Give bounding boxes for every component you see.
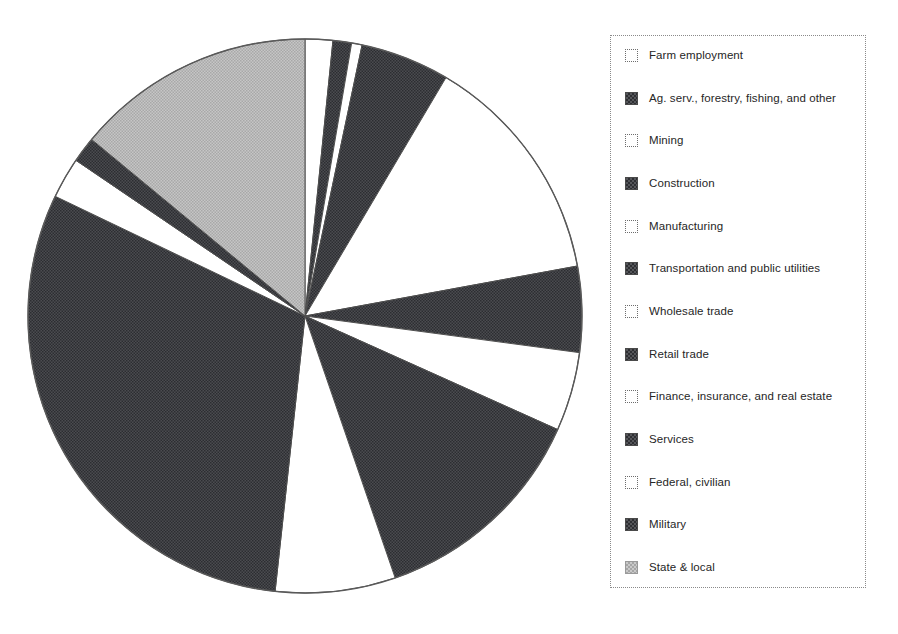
legend-swatch-icon <box>625 561 638 574</box>
legend-swatch-icon <box>625 305 638 318</box>
legend-item-label: Federal, civilian <box>649 476 731 489</box>
legend-item[interactable]: Finance, insurance, and real estate <box>625 386 859 407</box>
legend-item[interactable]: Ag. serv., forestry, fishing, and other <box>625 88 859 109</box>
legend-swatch-icon <box>625 348 638 361</box>
legend-item-label: Military <box>649 518 686 531</box>
legend-item-label: Construction <box>649 177 715 190</box>
pie-chart-svg <box>0 0 610 634</box>
legend-item[interactable]: Wholesale trade <box>625 301 859 322</box>
legend-item[interactable]: Military <box>625 514 859 535</box>
legend-items-list: Farm employmentAg. serv., forestry, fish… <box>611 36 865 587</box>
pie-chart-area <box>0 0 610 634</box>
legend-swatch-icon <box>625 476 638 489</box>
legend-swatch-icon <box>625 433 638 446</box>
legend-item-label: Finance, insurance, and real estate <box>649 390 832 403</box>
legend-swatch-icon <box>625 390 638 403</box>
legend-item-label: Ag. serv., forestry, fishing, and other <box>649 92 836 105</box>
legend-swatch-icon <box>625 134 638 147</box>
legend-swatch-icon <box>625 518 638 531</box>
legend-swatch-icon <box>625 262 638 275</box>
legend-item[interactable]: Farm employment <box>625 45 859 66</box>
legend-item-label: Services <box>649 433 694 446</box>
legend-item[interactable]: Services <box>625 429 859 450</box>
legend-item[interactable]: State & local <box>625 557 859 578</box>
legend-item-label: Farm employment <box>649 49 743 62</box>
legend-item-label: Manufacturing <box>649 220 723 233</box>
legend-item[interactable]: Transportation and public utilities <box>625 258 859 279</box>
legend-item[interactable]: Mining <box>625 130 859 151</box>
legend-item[interactable]: Retail trade <box>625 344 859 365</box>
legend-item[interactable]: Construction <box>625 173 859 194</box>
legend-item-label: Transportation and public utilities <box>649 262 820 275</box>
legend-box: Farm employmentAg. serv., forestry, fish… <box>610 35 866 588</box>
legend-swatch-icon <box>625 177 638 190</box>
legend-swatch-icon <box>625 49 638 62</box>
legend-item-label: Retail trade <box>649 348 709 361</box>
pie-chart-figure: Farm employmentAg. serv., forestry, fish… <box>0 0 898 634</box>
legend-item-label: Mining <box>649 134 683 147</box>
legend-swatch-icon <box>625 220 638 233</box>
pie-slices-group <box>28 39 582 593</box>
legend-swatch-icon <box>625 92 638 105</box>
legend-item-label: State & local <box>649 561 715 574</box>
legend-item[interactable]: Manufacturing <box>625 216 859 237</box>
legend-item[interactable]: Federal, civilian <box>625 472 859 493</box>
legend-item-label: Wholesale trade <box>649 305 734 318</box>
